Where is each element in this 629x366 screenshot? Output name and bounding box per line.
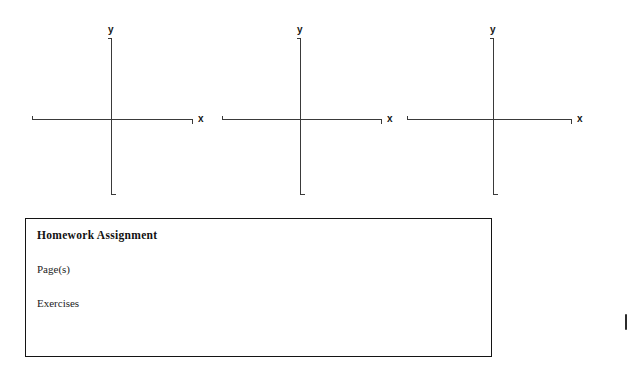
x-axis-label-2: x bbox=[387, 114, 393, 124]
y-axis-top-cap-3 bbox=[490, 38, 494, 39]
homework-exercises-line: Exercises bbox=[37, 297, 79, 309]
y-axis-line-2 bbox=[300, 38, 301, 195]
y-axis-line-1 bbox=[111, 38, 112, 195]
x-axis-label-3: x bbox=[577, 114, 583, 124]
scan-artifact-mark bbox=[625, 314, 627, 330]
coordinate-grids-row: y x y x y x bbox=[0, 0, 629, 210]
homework-title: Homework Assignment bbox=[37, 229, 157, 241]
coordinate-axes-2: y x bbox=[222, 0, 397, 210]
x-axis-right-cap-2 bbox=[381, 120, 382, 124]
x-axis-left-cap-2 bbox=[222, 116, 223, 120]
y-axis-label-1: y bbox=[108, 25, 114, 35]
y-axis-line-3 bbox=[493, 38, 494, 195]
x-axis-line-1 bbox=[32, 119, 193, 120]
x-axis-right-cap-1 bbox=[192, 120, 193, 124]
homework-assignment-box: Homework Assignment Page(s) Exercises bbox=[25, 218, 492, 357]
y-axis-bottom-cap-3 bbox=[494, 194, 498, 195]
x-axis-line-2 bbox=[222, 119, 382, 120]
y-axis-top-cap-1 bbox=[108, 38, 112, 39]
worksheet-page: y x y x y x Homework Assignment Page(s) bbox=[0, 0, 629, 366]
coordinate-axes-3: y x bbox=[407, 0, 587, 210]
x-axis-left-cap-3 bbox=[407, 116, 408, 120]
y-axis-label-2: y bbox=[297, 25, 303, 35]
y-axis-top-cap-2 bbox=[297, 38, 301, 39]
y-axis-bottom-cap-2 bbox=[301, 194, 305, 195]
y-axis-bottom-cap-1 bbox=[112, 194, 116, 195]
y-axis-label-3: y bbox=[490, 25, 496, 35]
x-axis-left-cap-1 bbox=[32, 116, 33, 120]
homework-pages-line: Page(s) bbox=[37, 263, 70, 275]
x-axis-line-3 bbox=[407, 119, 572, 120]
coordinate-axes-1: y x bbox=[32, 0, 207, 210]
x-axis-label-1: x bbox=[198, 114, 204, 124]
x-axis-right-cap-3 bbox=[571, 120, 572, 124]
